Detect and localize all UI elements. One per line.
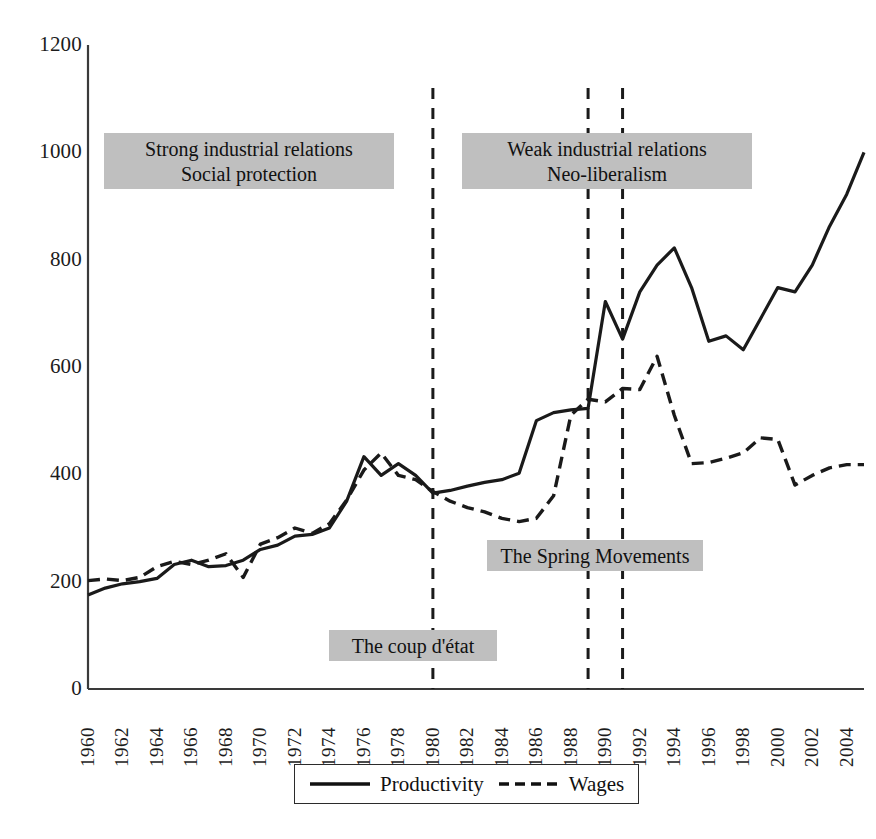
legend-label-wages: Wages: [569, 774, 624, 795]
productivity-wages-chart-figure: 020040060080010001200 196019621964196619…: [0, 0, 876, 839]
annotation-era-right: Weak industrial relationsNeo-liberalism: [462, 133, 752, 189]
annotation-line: The coup d'état: [339, 634, 487, 659]
x-tick-label: 1962: [113, 697, 131, 767]
x-tick-label: 2002: [803, 697, 821, 767]
x-tick-label: 1984: [493, 697, 511, 767]
x-tick-label: 2004: [838, 697, 856, 767]
x-tick-label: 1966: [182, 697, 200, 767]
x-tick-label: 1986: [527, 697, 545, 767]
legend-entry-wages: Wages: [498, 774, 624, 795]
x-tick-label: 1968: [217, 697, 235, 767]
x-tick-label: 1994: [665, 697, 683, 767]
annotation-spring-movements: The Spring Movements: [487, 540, 703, 571]
x-tick-label: 2000: [769, 697, 787, 767]
legend-entry-productivity: Productivity: [309, 774, 484, 795]
annotation-line: Social protection: [114, 162, 384, 187]
legend-label-productivity: Productivity: [380, 774, 484, 795]
x-tick-label: 1964: [148, 697, 166, 767]
annotation-line: The Spring Movements: [497, 544, 693, 569]
x-tick-label: 1982: [458, 697, 476, 767]
legend-dashed-line-icon: [498, 778, 560, 790]
legend-solid-line-icon: [309, 778, 371, 790]
x-tick-label: 1972: [286, 697, 304, 767]
x-tick-label: 1988: [562, 697, 580, 767]
x-tick-label: 1970: [251, 697, 269, 767]
annotation-line: Neo-liberalism: [472, 162, 742, 187]
annotation-era-left: Strong industrial relationsSocial protec…: [104, 133, 394, 189]
chart-legend: Productivity Wages: [294, 764, 639, 804]
x-tick-label: 1990: [596, 697, 614, 767]
x-tick-label: 1996: [700, 697, 718, 767]
x-tick-label: 1974: [320, 697, 338, 767]
x-tick-label: 1960: [79, 697, 97, 767]
x-tick-label: 1976: [355, 697, 373, 767]
x-tick-label: 1998: [734, 697, 752, 767]
x-axis-tick-labels: 1960196219641966196819701972197419761978…: [0, 0, 876, 839]
annotation-line: Weak industrial relations: [472, 137, 742, 162]
x-tick-label: 1980: [424, 697, 442, 767]
annotation-line: Strong industrial relations: [114, 137, 384, 162]
x-tick-label: 1992: [631, 697, 649, 767]
annotation-coup-detat: The coup d'état: [329, 630, 497, 661]
x-tick-label: 1978: [389, 697, 407, 767]
